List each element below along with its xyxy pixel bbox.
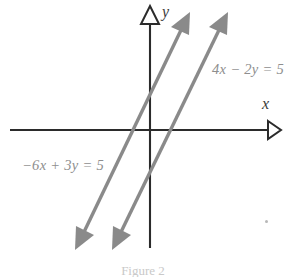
x-axis-label: x <box>262 96 269 112</box>
coordinate-graph <box>0 0 286 277</box>
figure-caption: Figure 2 <box>0 264 286 277</box>
y-axis-arrowhead-icon <box>141 6 159 24</box>
equation-label-line-a: −6x + 3y = 5 <box>22 158 104 173</box>
scan-speck-artifact <box>265 220 268 223</box>
x-axis-arrowhead-icon <box>268 121 281 139</box>
y-axis-label: y <box>162 4 169 20</box>
figure-container: y x 4x − 2y = 5 −6x + 3y = 5 Figure 2 <box>0 0 286 277</box>
equation-label-line-b: 4x − 2y = 5 <box>212 62 284 77</box>
